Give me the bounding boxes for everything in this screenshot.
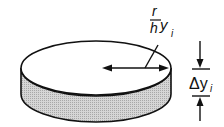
thickness-label: Δy i: [189, 75, 213, 94]
svg-text:h: h: [150, 20, 158, 36]
svg-text:i: i: [171, 28, 174, 39]
svg-text:Δy: Δy: [189, 75, 208, 92]
svg-text:r: r: [152, 3, 158, 19]
svg-text:i: i: [210, 83, 213, 94]
svg-text:y: y: [159, 16, 169, 33]
radius-label: r h y i: [150, 3, 174, 39]
disk-diagram: r h y i Δy i: [0, 0, 224, 127]
